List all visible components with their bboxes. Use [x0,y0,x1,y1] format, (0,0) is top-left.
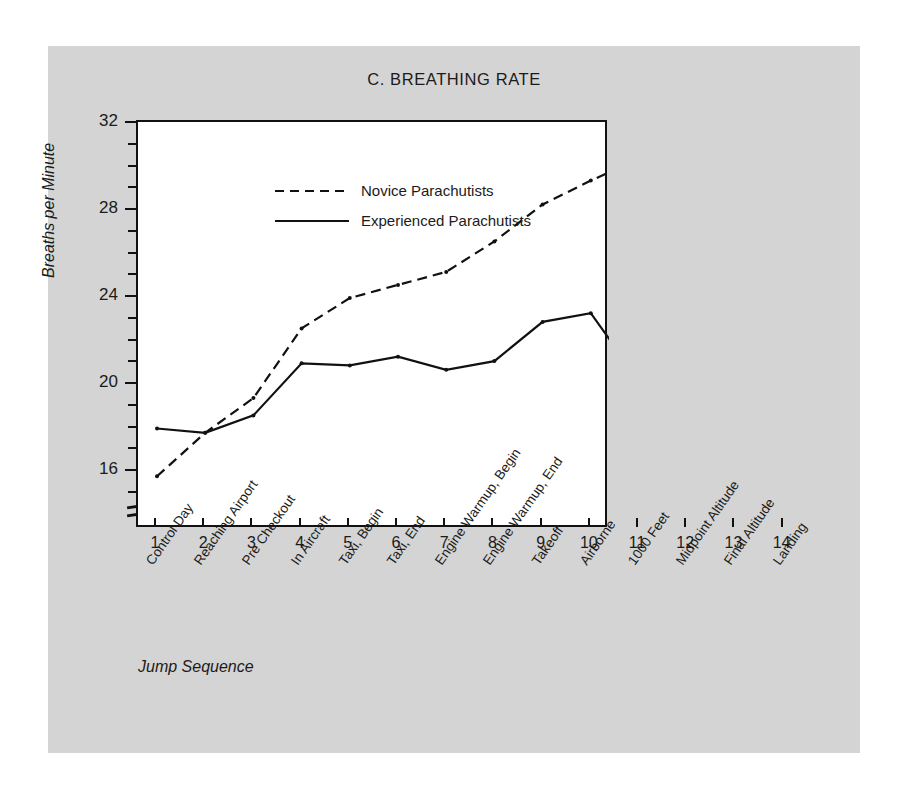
y-minor-tick [128,252,136,254]
data-point [155,427,159,431]
y-minor-tick [128,447,136,449]
y-tick-label: 20 [78,372,118,392]
legend-item-novice: Novice Parachutists [273,182,531,199]
legend-swatch-dashed [273,185,351,197]
data-point [396,355,400,359]
plot-area: Novice Parachutists Experienced Parachut… [136,120,607,527]
y-major-tick [125,469,136,471]
y-tick-label: 16 [78,459,118,479]
y-major-tick [125,208,136,210]
x-major-tick [347,518,349,527]
y-tick-label: 32 [78,111,118,131]
data-point [300,326,304,330]
x-major-tick [491,518,493,527]
y-tick-label: 28 [78,198,118,218]
legend: Novice Parachutists Experienced Parachut… [273,182,531,242]
x-major-tick [443,518,445,527]
x-major-tick [202,518,204,527]
data-point [492,359,496,363]
data-point [348,363,352,367]
chart-title: C. BREATHING RATE [48,70,860,89]
y-axis-title: Breaths per Minute [40,143,58,278]
data-point [589,179,593,183]
x-major-tick [395,518,397,527]
data-point [444,368,448,372]
data-point [541,202,545,206]
y-minor-tick [128,230,136,232]
series-line-solid [157,313,609,433]
data-point [203,431,207,435]
data-point [348,296,352,300]
y-minor-tick [128,273,136,275]
y-minor-tick [128,404,136,406]
y-tick-label: 24 [78,285,118,305]
x-axis-title: Jump Sequence [138,658,254,676]
legend-label-experienced: Experienced Parachutists [361,212,531,229]
figure-panel: C. BREATHING RATE Breaths per Minute 162… [48,46,860,753]
x-major-tick [684,518,686,527]
x-category-label: Final Altitude [721,496,778,568]
x-major-tick [781,518,783,527]
y-minor-tick [128,339,136,341]
legend-item-experienced: Experienced Parachutists [273,212,531,229]
y-major-tick [125,121,136,123]
data-point [541,320,545,324]
data-point [155,474,159,478]
y-minor-tick [128,317,136,319]
x-major-tick [588,518,590,527]
data-point [251,413,255,417]
x-major-tick [732,518,734,527]
x-major-tick [299,518,301,527]
y-minor-tick [128,426,136,428]
y-minor-tick [128,360,136,362]
y-minor-tick [128,143,136,145]
y-minor-tick [128,186,136,188]
data-point [444,270,448,274]
data-point [396,283,400,287]
x-major-tick [636,518,638,527]
y-minor-tick [128,165,136,167]
legend-label-novice: Novice Parachutists [361,182,494,199]
x-major-tick [540,518,542,527]
data-point [251,396,255,400]
y-major-tick [125,295,136,297]
legend-swatch-solid [273,215,351,227]
y-major-tick [125,382,136,384]
y-minor-tick [128,491,136,493]
data-point [589,311,593,315]
data-point [300,361,304,365]
x-major-tick [154,518,156,527]
x-major-tick [250,518,252,527]
